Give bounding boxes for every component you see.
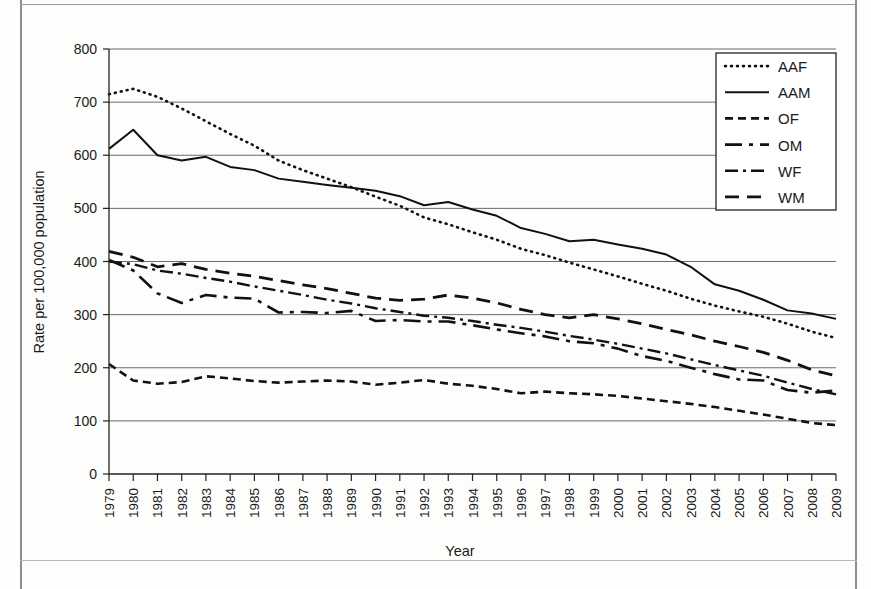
x-tick-label: 2000: [611, 488, 626, 518]
chart-legend[interactable]: AAFAAMOFOMWFWM: [716, 53, 836, 210]
legend-label-aaf[interactable]: AAF: [778, 58, 807, 75]
x-tick-label: 2003: [684, 488, 699, 518]
page-container: 0100200300400500600700800 19791980198119…: [0, 0, 871, 589]
legend-box: [716, 53, 836, 210]
y-tick-label: 800: [74, 41, 98, 57]
x-tick-label: 1988: [320, 488, 335, 518]
legend-label-wf[interactable]: WF: [778, 163, 801, 180]
x-axis-title: Year: [445, 543, 474, 559]
x-tick-label: 1991: [393, 488, 408, 518]
y-tick-label: 200: [74, 360, 98, 376]
x-tick-label: 1995: [490, 488, 505, 518]
x-tick-label: 2004: [708, 488, 723, 519]
y-tick-label: 600: [74, 147, 98, 163]
y-tick-label: 700: [74, 94, 98, 110]
x-tick-label: 1980: [126, 488, 141, 518]
y-tick-label: 300: [74, 307, 98, 323]
x-tick-label: 2006: [756, 488, 771, 518]
x-tick-label: 1992: [417, 488, 432, 518]
y-tick-label: 500: [74, 200, 98, 216]
x-tick-label: 1993: [441, 488, 456, 518]
x-tick-label: 1985: [247, 488, 262, 518]
x-tick-label: 2001: [635, 488, 650, 518]
x-tick-label: 1989: [344, 488, 359, 518]
x-tick-label: 1998: [562, 488, 577, 518]
x-tick-label: 1981: [150, 488, 165, 518]
x-tick-label: 1996: [514, 488, 529, 518]
x-tick-label: 1999: [587, 488, 602, 518]
x-tick-label: 1984: [223, 488, 238, 519]
x-tick-label: 2009: [829, 488, 844, 518]
series-line-of: [109, 364, 836, 425]
x-tick-label: 1997: [538, 488, 553, 518]
y-axis-title: Rate per 100,000 population: [31, 170, 47, 353]
series-line-wf: [109, 262, 836, 395]
x-axis-ticks: 1979198019811982198319841985198619871988…: [102, 474, 844, 518]
legend-label-of[interactable]: OF: [778, 110, 799, 127]
x-tick-label: 1983: [199, 488, 214, 518]
x-tick-label: 1987: [296, 488, 311, 518]
x-tick-label: 1990: [369, 488, 384, 518]
line-chart: 0100200300400500600700800 19791980198119…: [0, 0, 871, 589]
x-tick-label: 2008: [805, 488, 820, 518]
y-tick-label: 0: [89, 466, 97, 482]
x-tick-label: 1982: [175, 488, 190, 518]
x-tick-label: 2002: [659, 488, 674, 518]
legend-label-wm[interactable]: WM: [778, 189, 805, 206]
series-line-wm: [109, 251, 836, 375]
x-tick-label: 1994: [466, 488, 481, 519]
x-tick-label: 2005: [732, 488, 747, 518]
y-axis-ticks: 0100200300400500600700800: [74, 41, 109, 482]
x-tick-label: 1986: [272, 488, 287, 518]
x-tick-label: 1979: [102, 488, 117, 518]
legend-label-aam[interactable]: AAM: [778, 84, 811, 101]
y-tick-label: 100: [74, 413, 98, 429]
y-tick-label: 400: [74, 254, 98, 270]
x-tick-label: 2007: [781, 488, 796, 518]
legend-label-om[interactable]: OM: [778, 137, 802, 154]
